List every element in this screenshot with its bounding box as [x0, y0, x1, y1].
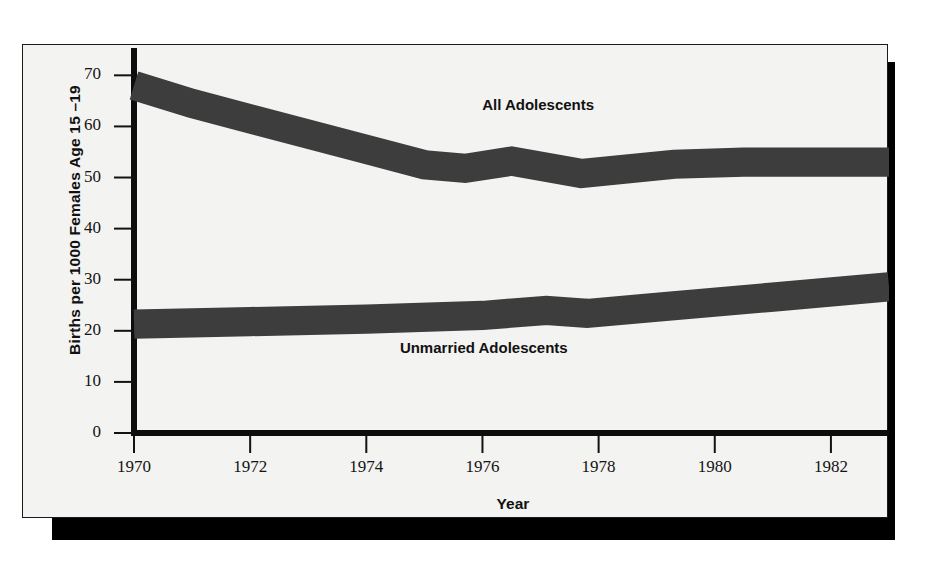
x-tick-label: 1982	[796, 457, 866, 477]
series-line-unmarried-adolescents	[134, 287, 889, 324]
figure-container: Births per 1000 Females Age 15 –19 Year …	[0, 0, 929, 568]
y-tick-label: 70	[61, 64, 101, 84]
x-tick-label: 1976	[447, 457, 517, 477]
y-tick-label: 20	[61, 320, 101, 340]
y-tick-label: 0	[61, 422, 101, 442]
y-tick-label: 50	[61, 167, 101, 187]
x-tick-label: 1972	[215, 457, 285, 477]
y-tick-label: 40	[61, 218, 101, 238]
y-tick-label: 30	[61, 269, 101, 289]
chart-panel: Births per 1000 Females Age 15 –19 Year …	[22, 44, 888, 518]
x-axis-ticks	[134, 436, 831, 453]
plot-area	[23, 45, 889, 519]
series-label-unmarried-adolescents: Unmarried Adolescents	[400, 339, 568, 356]
y-tick-label: 10	[61, 371, 101, 391]
x-tick-label: 1980	[680, 457, 750, 477]
line-chart-svg	[23, 45, 889, 519]
x-tick-label: 1978	[564, 457, 634, 477]
x-tick-label: 1970	[99, 457, 169, 477]
x-tick-label: 1974	[331, 457, 401, 477]
series-label-all-adolescents: All Adolescents	[482, 96, 594, 113]
y-tick-label: 60	[61, 115, 101, 135]
